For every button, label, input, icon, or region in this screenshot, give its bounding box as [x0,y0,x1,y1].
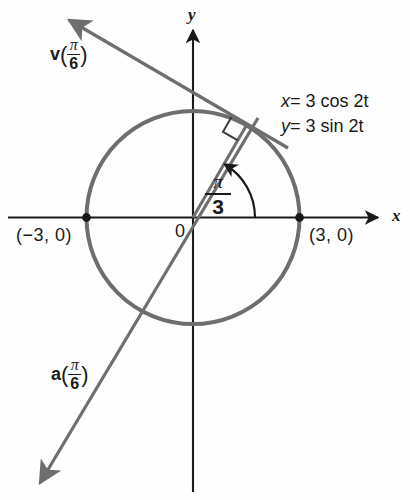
left-intercept-label: (−3, 0) [16,226,72,245]
acceleration-open-paren: ( [61,362,68,387]
diagram-canvas [0,0,410,500]
angle-denominator: 3 [205,196,231,217]
acceleration-argument-fraction: π 6 [68,357,81,392]
y-parametric-equation: y= 3 sin 2t [281,117,364,136]
x-parametric-equation: x= 3 cos 2t [281,92,369,111]
velocity-symbol: v [50,44,60,64]
right-intercept-label: (3, 0) [309,226,354,245]
y-axis-label: y [188,6,196,24]
angle-numerator: π [205,172,231,191]
angle-pi-over-3-label: π 3 [205,172,231,217]
velocity-argument-fraction: π 6 [67,37,80,72]
velocity-close-paren: ) [80,42,87,67]
velocity-vector-label: v( π 6 ) [50,38,88,73]
origin-label: 0 [175,222,185,241]
acceleration-arg-numerator: π [68,357,81,373]
left-intercept-dot [82,213,91,222]
velocity-open-paren: ( [60,42,67,67]
velocity-arg-denominator: 6 [67,56,80,72]
acceleration-vector-label: a( π 6 ) [51,358,89,393]
x-equation-variable: x [281,91,290,111]
velocity-arg-numerator: π [67,37,80,53]
y-equation-variable: y [281,116,290,136]
y-equation-body: = 3 sin 2t [290,116,364,136]
right-intercept-dot [295,213,304,222]
acceleration-arg-denominator: 6 [68,376,81,392]
x-axis-label: x [392,207,401,225]
acceleration-symbol: a [51,364,61,384]
acceleration-close-paren: ) [81,362,88,387]
x-equation-body: = 3 cos 2t [290,91,369,111]
parametric-circle-figure: y x 0 (−3, 0) (3, 0) x= 3 cos 2t y= 3 si… [0,0,410,500]
velocity-vector-arrow [69,20,288,148]
